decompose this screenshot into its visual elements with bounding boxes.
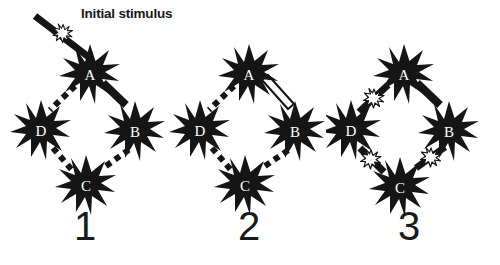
panel-3-number: 3 [326, 206, 492, 246]
node-d[interactable]: D [10, 100, 71, 160]
node-d-label: D [346, 123, 357, 139]
node-b[interactable]: B [104, 101, 165, 161]
node-d[interactable]: D [326, 100, 381, 160]
node-b-label: B [290, 124, 300, 140]
panel-1: A D B C 1 [2, 0, 168, 265]
initial-stimulus-label: Initial stimulus [81, 6, 172, 21]
panel-2-graphic: A D B C [166, 0, 332, 215]
node-a-label: A [85, 67, 96, 83]
panel-3-graphic: A D B C [326, 0, 492, 215]
panel-2-number: 2 [166, 206, 332, 246]
node-b-label: B [130, 124, 140, 140]
panel-3: A D B C 3 [326, 0, 492, 265]
node-b[interactable]: B [264, 101, 325, 161]
node-a-label: A [399, 67, 410, 83]
node-c-label: C [395, 180, 405, 196]
node-d-label: D [195, 123, 206, 139]
panel-2: A D B C 2 [166, 0, 332, 265]
node-a-label: A [244, 67, 255, 83]
panel-1-graphic: A D B C [2, 0, 168, 215]
connector-a-d [209, 86, 234, 110]
connector-a-b [417, 83, 440, 105]
connector-d-c [212, 148, 231, 170]
node-d-label: D [36, 123, 47, 139]
connector-a-d [50, 86, 75, 110]
connector-a-b [103, 83, 126, 105]
node-d[interactable]: D [169, 100, 230, 160]
connector-d-c [53, 148, 72, 170]
node-b-label: B [444, 124, 454, 140]
node-c-label: C [240, 178, 250, 194]
panel-1-number: 1 [2, 206, 168, 246]
figure-canvas: A D B C 1 [0, 0, 500, 265]
node-c-label: C [81, 178, 91, 194]
